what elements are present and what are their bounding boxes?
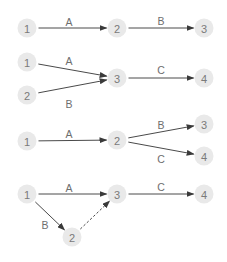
event-node-4: 4 [195,69,214,88]
diagram-3-nodes: 1234 [18,115,214,166]
activity-label: A [65,55,72,67]
activity-label: A [65,182,72,194]
event-node-2: 2 [63,228,82,247]
activity-arrow-b [38,80,106,93]
node-number: 1 [24,189,30,201]
network-diagram-canvas: ABABCABCACB 123123412341342 [0,0,227,262]
node-number: 3 [114,73,120,85]
node-number: 3 [201,23,207,35]
event-node-1: 1 [18,53,37,72]
event-node-2: 2 [18,86,37,105]
event-node-2: 2 [108,19,127,38]
activity-arrow-b [35,202,64,230]
event-node-4: 4 [195,147,214,166]
node-number: 3 [114,189,120,201]
activity-label: B [157,119,164,131]
node-number: 1 [24,23,30,35]
node-number: 2 [114,23,120,35]
activity-label: B [41,219,48,231]
event-node-4: 4 [195,185,214,204]
activity-arrow-a [38,140,106,141]
event-node-3: 3 [195,115,214,134]
node-number: 1 [24,136,30,148]
activity-label: C [157,181,165,193]
node-number: 4 [201,151,207,163]
activity-label: C [157,153,165,165]
dummy-activity-arrow [80,201,109,229]
node-number: 4 [201,189,207,201]
activity-label: B [157,15,164,27]
event-node-1: 1 [18,19,37,38]
activity-label: B [65,98,72,110]
event-node-1: 1 [18,185,37,204]
node-number: 1 [24,57,30,69]
event-node-3: 3 [108,185,127,204]
node-number: 3 [201,119,207,131]
event-node-1: 1 [18,132,37,151]
activity-label: A [65,128,72,140]
activity-label: C [157,64,165,76]
node-number: 4 [201,73,207,85]
event-node-3: 3 [195,19,214,38]
nodes-layer: 123123412341342 [18,19,214,247]
node-number: 2 [69,232,75,244]
node-number: 2 [114,135,120,147]
activity-label: A [65,16,72,28]
event-node-3: 3 [108,69,127,88]
event-node-2: 2 [108,131,127,150]
node-number: 2 [24,90,30,102]
